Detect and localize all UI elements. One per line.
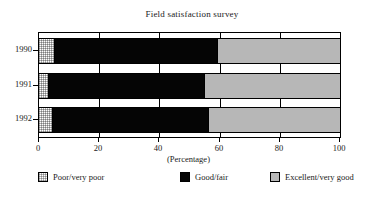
bar-row xyxy=(39,73,340,99)
legend-swatch-icon xyxy=(180,172,190,182)
bar-segment xyxy=(39,108,53,132)
x-axis-tick-label: 100 xyxy=(324,143,354,153)
bar-row xyxy=(39,38,340,64)
x-axis-tick xyxy=(158,138,159,142)
y-axis-tick xyxy=(33,50,38,51)
legend-item[interactable]: Poor/very poor xyxy=(38,170,104,184)
bar-segment xyxy=(53,108,209,132)
x-axis-tick-label: 60 xyxy=(204,143,234,153)
bar-segment xyxy=(39,39,55,63)
bar-segment xyxy=(39,74,49,98)
y-axis-label: 1992 xyxy=(2,114,32,123)
legend-label: Good/fair xyxy=(195,172,228,182)
x-axis-tick xyxy=(339,138,340,142)
x-axis-tick xyxy=(219,138,220,142)
plot-inner xyxy=(39,33,340,137)
legend-item[interactable]: Good/fair xyxy=(180,170,228,184)
y-axis-line xyxy=(38,32,39,138)
chart-title: Field satisfaction survey xyxy=(0,9,384,19)
y-axis-labels: 199019911992 xyxy=(0,32,32,136)
x-axis-line xyxy=(38,137,340,138)
bar-row xyxy=(39,107,340,133)
legend-label: Excellent/very good xyxy=(285,172,354,182)
y-axis-label: 1991 xyxy=(2,80,32,89)
y-axis-tick xyxy=(33,119,38,120)
x-axis-tick xyxy=(38,138,39,142)
x-axis-tick-label: 40 xyxy=(143,143,173,153)
y-axis-tick xyxy=(33,85,38,86)
y-axis-label: 1990 xyxy=(2,45,32,54)
bar-segment xyxy=(218,39,340,63)
x-axis-tick-label: 80 xyxy=(264,143,294,153)
bar-segment xyxy=(55,39,218,63)
x-axis-tick xyxy=(279,138,280,142)
x-axis-tick-label: 20 xyxy=(83,143,113,153)
bar-segment xyxy=(209,108,340,132)
chart-figure: Field satisfaction survey 199019911992 0… xyxy=(0,0,384,199)
legend-swatch-icon xyxy=(270,172,280,182)
plot-area xyxy=(38,32,341,138)
chart-legend: Poor/very poorGood/fairExcellent/very go… xyxy=(32,170,362,188)
legend-swatch-icon xyxy=(38,172,48,182)
bar-segment xyxy=(205,74,340,98)
x-axis-tick xyxy=(98,138,99,142)
legend-label: Poor/very poor xyxy=(53,172,104,182)
x-axis-title: (Percentage) xyxy=(38,154,339,164)
legend-item[interactable]: Excellent/very good xyxy=(270,170,354,184)
x-axis-tick-label: 0 xyxy=(23,143,53,153)
bar-segment xyxy=(49,74,205,98)
